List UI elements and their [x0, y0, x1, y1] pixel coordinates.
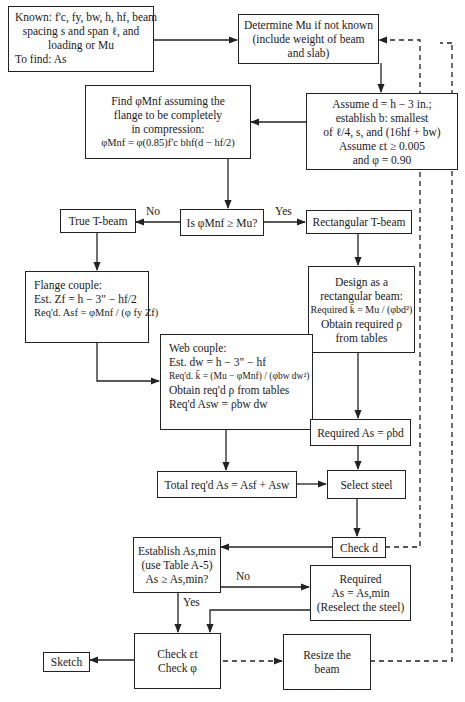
assume-line4: Assume εt ≥ 0.005	[339, 139, 425, 153]
total-as-text: Total req'd As = Asf + Asw	[165, 478, 290, 492]
check-d-text: Check d	[340, 541, 378, 555]
web-line2: Est. dw = h − 3" − hf	[169, 355, 304, 369]
design-line2: rectangular beam:	[320, 289, 403, 303]
web-line4: Obtain req'd ρ from tables	[169, 383, 304, 397]
find-line2: flange to be completely	[114, 108, 222, 122]
node-design-rectangular: Design as a rectangular beam: Required k…	[308, 266, 415, 353]
flange-line1: Flange couple:	[34, 278, 140, 292]
node-true-tbeam: True T-beam	[60, 209, 136, 233]
check-et-line2: Check φ	[158, 661, 197, 675]
node-rectangular-tbeam: Rectangular T-beam	[306, 210, 412, 234]
establish-line2: (use Table A-5)	[141, 558, 212, 572]
select-steel-text: Select steel	[340, 478, 392, 492]
design-line4: Obtain required ρ	[321, 317, 402, 331]
req-asmin-line3: (Reselect the steel)	[317, 600, 405, 614]
check-et-line1: Check εt	[157, 647, 197, 661]
assume-line2: establish b: smallest	[336, 111, 429, 125]
known-line3: loading or Mu	[15, 38, 147, 52]
node-known-inputs: Known: f'c, fy, bw, h, hf, beam spacing …	[8, 6, 154, 72]
flange-line3: Req'd. Asf = φMnf / (φ fy Zf)	[34, 306, 140, 320]
node-required-asmin: Required As = As,min (Reselect the steel…	[310, 565, 411, 621]
node-sketch: Sketch	[43, 652, 90, 672]
node-resize-beam: Resize the beam	[283, 634, 371, 690]
true-tbeam-text: True T-beam	[69, 214, 128, 228]
known-line4: To find: As	[15, 52, 147, 66]
design-line5: from tables	[335, 331, 387, 345]
node-find-phi-mnf: Find φMnf assuming the flange to be comp…	[85, 85, 251, 159]
decision-mnf-text: Is φMnf ≥ Mu?	[187, 216, 258, 230]
determine-line1: Determine Mu if not known	[244, 18, 373, 32]
node-assume-d: Assume d = h − 3 in.; establish b: small…	[306, 93, 458, 170]
find-line1: Find φMnf assuming the	[111, 94, 225, 108]
assume-line5: and φ = 0.90	[353, 153, 411, 167]
flange-line2: Est. Zf = h − 3" − hf/2	[34, 292, 140, 306]
node-check-et-phi: Check εt Check φ	[134, 633, 221, 689]
design-line1: Design as a	[335, 275, 388, 289]
assume-line1: Assume d = h − 3 in.;	[332, 97, 432, 111]
establish-line1: Establish As,min	[138, 544, 216, 558]
design-line3: Required k̄ = Mu / (φbd²)	[311, 303, 413, 317]
web-line5: Req'd Asw = ρbw dw	[169, 397, 304, 411]
edge-label-no-mnf: No	[146, 205, 160, 217]
find-line3: in compression:	[131, 122, 204, 136]
sketch-text: Sketch	[51, 655, 82, 669]
node-establish-asmin: Establish As,min (use Table A-5) As ≥ As…	[133, 537, 221, 593]
resize-line2: beam	[315, 662, 340, 676]
web-line3: Req'd. k̄ = (Mu − φMnf) / (φbw dw²)	[169, 369, 304, 383]
establish-line3: As ≥ As,min?	[146, 572, 209, 586]
node-decision-mnf-ge-mu: Is φMnf ≥ Mu?	[180, 209, 264, 236]
edge-label-yes-mnf: Yes	[275, 205, 292, 217]
node-select-steel: Select steel	[327, 470, 406, 499]
determine-line3: and slab)	[288, 46, 330, 60]
find-formula: φMnf = φ(0.85)f'c bhf(d − hf/2)	[101, 136, 235, 150]
node-determine-mu: Determine Mu if not known (include weigh…	[238, 14, 379, 64]
node-required-as-rhobd: Required As = ρbd	[310, 419, 411, 446]
resize-line1: Resize the	[303, 648, 351, 662]
node-flange-couple: Flange couple: Est. Zf = h − 3" − hf/2 R…	[25, 271, 149, 343]
assume-line3: of ℓ/4, s, and (16hf + bw)	[323, 125, 440, 139]
known-line2: spacing s and span ℓ, and	[15, 24, 147, 38]
edge-label-yes-asmin: Yes	[183, 596, 200, 608]
node-web-couple: Web couple: Est. dw = h − 3" − hf Req'd.…	[160, 334, 313, 430]
required-as-text: Required As = ρbd	[317, 426, 404, 440]
known-line1: Known: f'c, fy, bw, h, hf, beam	[15, 10, 147, 24]
req-asmin-line1: Required	[339, 572, 381, 586]
rect-tbeam-text: Rectangular T-beam	[313, 215, 406, 229]
req-asmin-line2: As = As,min	[332, 586, 390, 600]
node-total-as: Total req'd As = Asf + Asw	[157, 471, 297, 498]
edge-label-no-asmin: No	[236, 570, 250, 582]
determine-line2: (include weight of beam	[252, 32, 364, 46]
node-check-d: Check d	[332, 537, 386, 558]
web-line1: Web couple:	[169, 341, 304, 355]
